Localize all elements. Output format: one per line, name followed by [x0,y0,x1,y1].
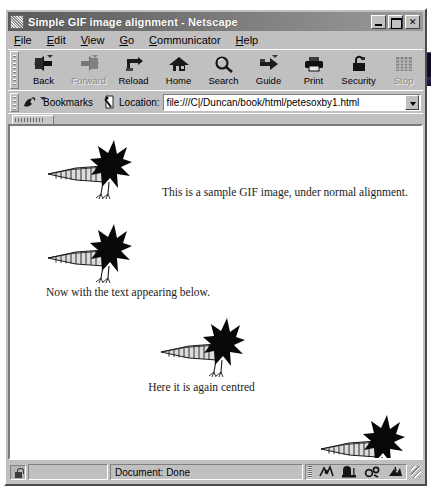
back-button-label: Back [33,75,54,86]
guide-menu-arrow[interactable] [272,55,278,58]
page-document: This is a sample GIF image, under normal… [10,126,421,458]
unlocked-padlock-icon[interactable] [10,465,26,480]
personal-toolbar [8,113,423,124]
print-button-label: Print [304,75,324,86]
back-button[interactable]: Back [21,52,66,86]
stop-icon [391,54,417,74]
navigator-icon[interactable] [318,465,335,479]
location-label: Location: [119,97,160,108]
page-compass-icon [103,95,116,109]
back-arrow-icon [31,54,57,74]
url-input-value: file:///C|/Duncan/book/html/petesoxby1.h… [164,97,405,108]
printer-icon [301,54,327,74]
reload-button-label: Reload [118,75,148,86]
security-button[interactable]: Security [336,52,381,86]
search-button-label: Search [208,75,238,86]
home-icon [166,54,192,74]
url-dropdown-button[interactable] [405,95,419,110]
bird-gif-image [159,316,245,378]
location-drag-handle[interactable] [10,93,19,112]
guide-button[interactable]: Guide [246,52,291,86]
netscape-logo[interactable]: N [426,52,431,86]
search-icon [211,54,237,74]
bookmark-ribbon-icon [23,95,40,109]
caption-centred: Here it is again centred [18,381,385,393]
reload-button[interactable]: Reload [111,52,156,86]
maximize-button[interactable] [388,15,403,29]
home-button-label: Home [166,75,191,86]
close-button[interactable]: ✕ [405,15,420,29]
address-book-icon[interactable] [387,465,404,479]
search-button[interactable]: Search [201,52,246,86]
image-block-centred: Here it is again centred [18,316,413,393]
caption-normal: This is a sample GIF image, under normal… [132,186,408,200]
menu-item-go[interactable]: Go [117,33,136,47]
bird-gif-image [46,138,132,200]
bird-gif-image [319,413,405,460]
discussions-icon[interactable] [364,465,381,479]
stop-button[interactable]: Stop [381,52,426,86]
window-controls: ✕ [371,15,421,29]
forward-button[interactable]: Forward [66,52,111,86]
image-block-normal: This is a sample GIF image, under normal… [18,138,413,200]
window-title: Simple GIF image alignment - Netscape [28,16,371,28]
window-resize-grip[interactable] [409,464,423,480]
menu-item-communicator[interactable]: Communicator [147,33,223,47]
location-toolbar: Bookmarks Location: file:///C|/Duncan/bo… [8,91,423,113]
mailbox-icon[interactable] [341,465,358,479]
component-bar-handle[interactable] [308,466,312,478]
guide-button-label: Guide [256,75,281,86]
navigation-toolbar-container: Back Forward [8,49,423,90]
content-frame: This is a sample GIF image, under normal… [8,124,423,460]
stop-button-label: Stop [394,75,414,86]
caption-below: Now with the text appearing below. [46,286,413,298]
menu-bar: File Edit View Go Communicator Help [6,31,425,49]
minimize-button[interactable] [371,15,386,29]
component-bar [305,464,407,480]
reload-icon [121,54,147,74]
menu-item-file[interactable]: File [12,33,34,47]
navigation-toolbar: Back Forward [8,50,423,90]
menu-item-view[interactable]: View [79,33,107,47]
forward-menu-arrow[interactable] [92,55,98,58]
image-block-right: And also right justified [18,413,413,460]
back-menu-arrow[interactable] [47,55,53,58]
location-button[interactable]: Location: [97,95,163,109]
personal-toolbar-tab[interactable] [12,115,54,124]
location-toolbar-container: Bookmarks Location: file:///C|/Duncan/bo… [8,90,423,113]
toolbar-buttons: Back Forward [21,50,426,86]
bookmarks-menu-arrow[interactable] [40,97,46,100]
status-message: Document: Done [110,464,303,480]
guide-icon [256,54,282,74]
netscape-document-icon [10,15,24,29]
status-bar: Document: Done [8,462,423,482]
toolbar-drag-handle[interactable] [10,51,19,89]
security-button-label: Security [341,75,375,86]
home-button[interactable]: Home [156,52,201,86]
menu-item-edit[interactable]: Edit [45,33,68,47]
bird-gif-image [46,222,132,284]
title-bar[interactable]: Simple GIF image alignment - Netscape ✕ [8,12,423,31]
bookmarks-label: Bookmarks [43,97,93,108]
url-input[interactable]: file:///C|/Duncan/book/html/petesoxby1.h… [163,94,421,111]
forward-button-label: Forward [71,75,106,86]
padlock-icon [346,54,372,74]
bookmarks-button[interactable]: Bookmarks [21,95,97,109]
image-block-below: Now with the text appearing below. [18,222,413,298]
personal-toolbar-fold [54,114,61,124]
forward-arrow-icon [76,54,102,74]
progress-area [28,464,108,480]
menu-item-help[interactable]: Help [234,33,261,47]
print-button[interactable]: Print [291,52,336,86]
browser-window: Simple GIF image alignment - Netscape ✕ … [4,8,427,486]
